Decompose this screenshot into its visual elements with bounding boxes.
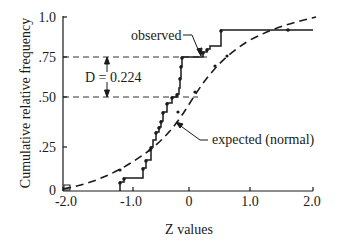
x-tick-label: -2.0	[55, 194, 77, 209]
x-tick-label: 0	[186, 194, 193, 209]
observed-leader	[183, 35, 202, 56]
expected-normal-curve	[63, 17, 316, 189]
y-axis-title: Cumulative relative frequency	[18, 18, 33, 188]
observed-points	[118, 28, 290, 185]
y-tick-label: .50	[39, 90, 57, 105]
x-tick-label: 2.0	[303, 194, 321, 209]
observed-label: observed	[131, 28, 182, 43]
expected-leader	[176, 122, 208, 140]
y-tick-labels: 1.0 .75 .50 .25 0	[39, 10, 57, 198]
observed-step-line	[120, 30, 313, 191]
x-tick-label: 1.0	[241, 194, 259, 209]
ks-cdf-chart: 1.0 .75 .50 .25 0 -2.0 -1.0 0 1.0 2.0 Z …	[0, 0, 340, 246]
chart-canvas: 1.0 .75 .50 .25 0 -2.0 -1.0 0 1.0 2.0 Z …	[0, 0, 340, 246]
axes	[63, 16, 313, 191]
x-tick-label: -1.0	[120, 194, 142, 209]
y-tick-label: .25	[39, 140, 57, 155]
d-statistic-label: D = 0.224	[85, 70, 142, 85]
x-axis-title: Z values	[165, 222, 213, 237]
x-tick-labels: -2.0 -1.0 0 1.0 2.0	[55, 194, 321, 209]
y-tick-label: 1.0	[39, 10, 57, 25]
expected-label: expected (normal)	[212, 132, 315, 148]
y-tick-label: .75	[39, 50, 57, 65]
